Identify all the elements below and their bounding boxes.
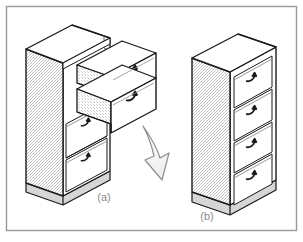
- caption-a: (a): [97, 191, 110, 203]
- caption-b: (b): [200, 210, 213, 222]
- cabinet-a-side-panel: [26, 49, 63, 196]
- figure-illustration: (a) (b): [0, 0, 303, 242]
- cabinet-b: [192, 34, 276, 215]
- illustration-canvas: (a) (b): [0, 0, 303, 242]
- cabinet-b-side-panel: [192, 58, 230, 205]
